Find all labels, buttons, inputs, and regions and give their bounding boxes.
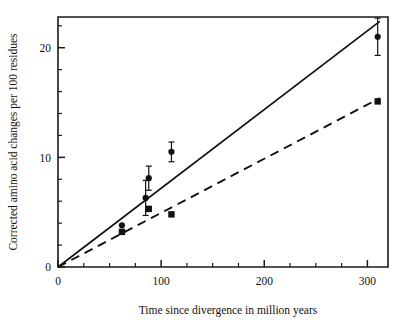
data-point-square — [146, 206, 152, 212]
regression-lines — [58, 21, 380, 267]
data-point-circle — [168, 149, 174, 155]
x-tick-label: 300 — [359, 275, 377, 287]
x-axis-tick-labels: 0100200300 — [55, 275, 376, 287]
dashed-regression-line — [58, 98, 380, 267]
data-point-circle — [375, 34, 381, 40]
data-point-square — [168, 211, 174, 217]
solid-regression-line — [58, 21, 380, 267]
scatter-plot-figure: 0100200300 01020 Time since divergence i… — [0, 0, 408, 320]
data-point-square — [374, 98, 380, 104]
data-markers — [119, 34, 381, 235]
data-point-circle — [146, 175, 152, 181]
data-point-circle — [119, 222, 125, 228]
y-tick-label: 20 — [40, 42, 52, 54]
x-tick-label: 100 — [153, 275, 171, 287]
x-axis-title: Time since divergence in million years — [139, 304, 318, 317]
x-axis-ticks — [58, 260, 367, 267]
y-tick-label: 0 — [45, 261, 51, 273]
x-tick-label: 0 — [55, 275, 61, 287]
y-axis-tick-labels: 01020 — [40, 42, 52, 273]
plot-canvas: 0100200300 01020 Time since divergence i… — [0, 0, 408, 320]
y-tick-label: 10 — [40, 152, 52, 164]
data-point-square — [119, 229, 125, 235]
y-axis-ticks — [58, 26, 65, 267]
y-axis-title: Corrected amino acid changes per 100 res… — [7, 33, 20, 251]
data-point-circle — [143, 195, 149, 201]
x-tick-label: 200 — [256, 275, 274, 287]
